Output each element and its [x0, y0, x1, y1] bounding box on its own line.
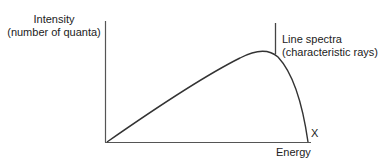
line-spectra-label-line1: Line spectra	[282, 33, 378, 46]
endpoint-x-label: X	[311, 127, 318, 140]
line-spectra-annotation: Line spectra (characteristic rays)	[282, 33, 378, 59]
continuous-spectrum-curve	[107, 51, 308, 142]
y-axis-label: Intensity (number of quanta)	[6, 13, 102, 39]
line-spectra-label-line2: (characteristic rays)	[282, 46, 378, 59]
x-axis-label: Energy	[276, 146, 311, 159]
y-axis-label-line2: (number of quanta)	[6, 26, 102, 39]
y-axis-label-line1: Intensity	[6, 13, 102, 26]
